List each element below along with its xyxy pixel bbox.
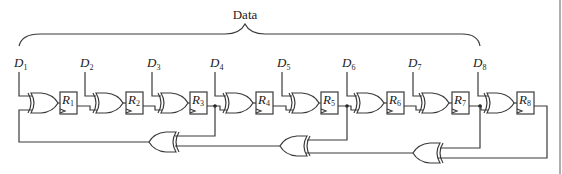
lfsr-circuit-diagram: Data D1 D2 D3 D4 D5 D6 D7 D8 [0,0,562,174]
register-r5: R5 [321,92,338,114]
register-r4: R4 [256,92,273,114]
data-brace [19,24,480,46]
input-label-d3: D3 [146,55,160,72]
input-label-d5: D5 [276,55,290,72]
register-r1: R1 [60,92,77,114]
xor-gate-1 [28,93,58,113]
xor-gate-8 [484,93,514,113]
register-r8: R8 [517,92,534,114]
input-label-d7: D7 [407,55,421,72]
xor-gate-7 [419,93,449,113]
feedback-xor-2 [280,136,310,156]
xor-gate-3 [158,93,188,113]
feedback-xor-1 [149,132,179,152]
input-wires [19,72,488,96]
xor-gate-4 [223,93,253,113]
xor-gate-5 [289,93,319,113]
input-label-d6: D6 [341,55,355,72]
input-labels: D1 D2 D3 D4 D5 D6 D7 D8 [13,55,486,72]
input-label-d1: D1 [13,55,27,72]
feedback-xor-3 [413,143,443,163]
input-label-d2: D2 [79,55,93,72]
register-r7: R7 [452,92,469,114]
input-label-d8: D8 [472,55,486,72]
register-r3: R3 [190,92,207,114]
xor-gate-6 [354,93,384,113]
xor-gate-2 [93,93,123,113]
register-r2: R2 [126,92,143,114]
data-title: Data [233,7,258,22]
register-r6: R6 [387,92,404,114]
input-label-d4: D4 [209,55,223,72]
